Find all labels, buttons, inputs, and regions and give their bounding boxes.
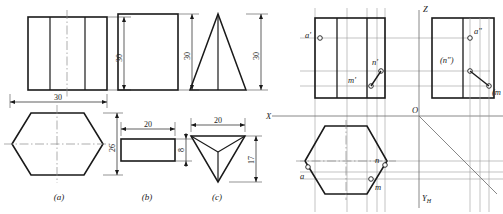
dim-label-b-width: 20 <box>144 120 152 129</box>
dim-label-c-depth: 17 <box>247 156 256 164</box>
top-point-m-label: m <box>375 182 381 192</box>
technical-drawing-canvas: 30 30 26 (a) <box>0 0 503 214</box>
front-point-m-label: m' <box>348 75 356 85</box>
projection-diagram-group: Z X O YH a' n' <box>265 4 503 212</box>
front-point-n-label: n' <box>372 57 378 67</box>
dim-b-width-20: 20 <box>121 120 175 136</box>
projection-lines-horizontal <box>300 38 503 179</box>
dim-label-c-width: 20 <box>214 116 222 125</box>
top-point-a-label: a <box>300 171 304 181</box>
side-point-m-label: (m <box>492 87 501 97</box>
solid-b-group: 30 20 8 (b) <box>118 14 199 202</box>
front-view-segment-mn <box>371 71 381 86</box>
center-lines-a-top <box>4 105 111 183</box>
axis-yh: YH <box>419 116 432 208</box>
top-view-point-a: a <box>300 165 310 181</box>
top-point-n-label: n <box>375 155 379 165</box>
caption-a: (a) <box>54 192 65 202</box>
side-view-point-n: (n") <box>440 55 472 73</box>
caption-b: (b) <box>142 192 153 202</box>
dim-b-height-30: 30 <box>178 14 199 90</box>
axis-yh-label: YH <box>422 193 432 204</box>
front-view-point-a: a' <box>305 30 322 40</box>
solid-b-top-view <box>121 139 175 161</box>
dim-label-a-depth: 26 <box>108 144 117 152</box>
solid-a-top-view <box>4 105 111 183</box>
side-view-segment-mn <box>470 71 489 86</box>
axis-z-label: Z <box>423 4 428 14</box>
front-view-point-m: m' <box>348 75 373 88</box>
dim-a-width-30: 30 <box>10 93 107 108</box>
dim-b-depth-8: 8 <box>175 133 192 167</box>
side-point-a-label: a" <box>474 26 482 36</box>
dim-a-depth-26: 26 <box>103 113 123 175</box>
axis-z: Z <box>419 4 428 116</box>
solid-c-front-view <box>190 14 246 90</box>
dim-c-width-20: 20 <box>191 116 245 132</box>
axis-origin-label: O <box>412 105 418 115</box>
solid-c-group: 30 20 17 (c) <box>190 14 268 202</box>
dim-c-height-30: 30 <box>246 14 268 90</box>
dim-label-b-height: 30 <box>183 52 192 60</box>
axis-x-label: X <box>265 111 272 121</box>
side-point-n-label: (n") <box>440 55 454 65</box>
dim-label-a-width: 30 <box>54 93 62 102</box>
front-point-a-label: a' <box>305 30 311 40</box>
dim-label-b-depth: 8 <box>177 148 186 152</box>
solid-b-front-view <box>118 14 178 90</box>
axis-x: X <box>265 111 503 121</box>
caption-c: (c) <box>212 192 222 202</box>
solid-c-top-view <box>191 136 245 182</box>
dim-a-height-30: 30 <box>107 17 131 90</box>
dim-label-a-height: 30 <box>115 54 124 62</box>
miter-line-45 <box>419 116 497 194</box>
solid-a-front-view <box>28 10 107 97</box>
solid-a-group: 30 30 26 (a) <box>4 10 131 202</box>
figure-root: 30 30 26 (a) <box>0 0 503 214</box>
dim-label-c-height: 30 <box>252 52 261 60</box>
